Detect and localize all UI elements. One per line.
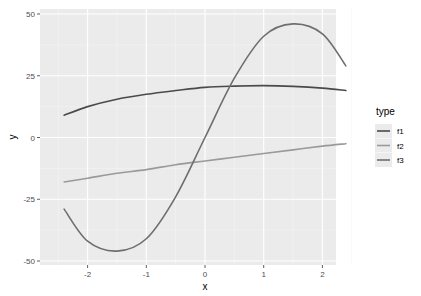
y-tick-label: -50 (23, 257, 35, 266)
y-tick-label: 50 (26, 10, 35, 19)
y-tick-label: 0 (31, 134, 36, 143)
x-axis-title: x (203, 281, 208, 292)
y-tick-label: -25 (23, 195, 35, 204)
legend-label-f2: f2 (397, 142, 404, 151)
y-tick-label: 25 (26, 72, 35, 81)
legend-label-f3: f3 (397, 156, 404, 165)
x-tick-label: -1 (143, 270, 151, 279)
x-axis: -2-1012 (84, 265, 325, 279)
legend: type f1f2f3 (375, 106, 404, 167)
legend-title: type (376, 106, 395, 117)
x-tick-label: 0 (203, 270, 208, 279)
x-tick-label: 1 (261, 270, 266, 279)
x-tick-label: 2 (320, 270, 325, 279)
x-tick-label: -2 (84, 270, 92, 279)
y-axis: 50250-25-50 (23, 10, 40, 266)
line-chart: 50250-25-50 -2-1012 x y type f1f2f3 (0, 0, 421, 296)
y-axis-title: y (7, 135, 18, 140)
legend-label-f1: f1 (397, 127, 404, 136)
